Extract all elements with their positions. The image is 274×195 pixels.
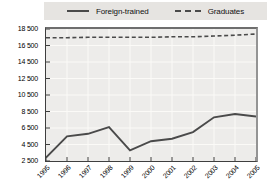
y-axis-tick-label: 16 500 bbox=[0, 42, 38, 50]
y-axis-tick-label: 14 500 bbox=[0, 58, 38, 66]
y-axis-tick-label: 2 500 bbox=[0, 157, 38, 165]
legend-label-graduates: Graduates bbox=[208, 7, 244, 16]
dashed-line-icon bbox=[175, 10, 201, 12]
x-axis-tick-label: 2003 bbox=[194, 164, 219, 189]
x-axis-tick-label: 2001 bbox=[152, 164, 177, 189]
plot-area bbox=[45, 27, 258, 162]
y-axis-tick-label: 12 500 bbox=[0, 75, 38, 83]
y-axis-tick-label: 6 500 bbox=[0, 124, 38, 132]
y-axis-tick-label: 10 500 bbox=[0, 91, 38, 99]
y-axis-tick-label: 4 500 bbox=[0, 141, 38, 149]
legend-item-foreign-trained: Foreign-trained bbox=[67, 7, 149, 16]
x-axis-tick-label: 2000 bbox=[131, 164, 156, 189]
chart-figure: Foreign-trained Graduates 18 50016 50014… bbox=[0, 0, 274, 195]
x-axis-tick-label: 2005 bbox=[236, 164, 261, 189]
y-axis-tick-label: 8 500 bbox=[0, 108, 38, 116]
x-axis-tick-label: 1995 bbox=[26, 164, 51, 189]
x-axis-tick-label: 1998 bbox=[89, 164, 114, 189]
x-axis-tick-label: 1996 bbox=[47, 164, 72, 189]
solid-line-icon bbox=[67, 10, 89, 12]
y-axis-tick-label: 18 500 bbox=[0, 25, 38, 33]
legend-label-foreign-trained: Foreign-trained bbox=[96, 7, 149, 16]
x-axis-tick-label: 1997 bbox=[68, 164, 93, 189]
chart-legend: Foreign-trained Graduates bbox=[44, 2, 267, 20]
x-axis-tick-label: 2002 bbox=[173, 164, 198, 189]
legend-item-graduates: Graduates bbox=[175, 7, 244, 16]
x-axis-tick-label: 2004 bbox=[215, 164, 240, 189]
chart-canvas bbox=[46, 29, 256, 161]
x-axis-tick-label: 1999 bbox=[110, 164, 135, 189]
